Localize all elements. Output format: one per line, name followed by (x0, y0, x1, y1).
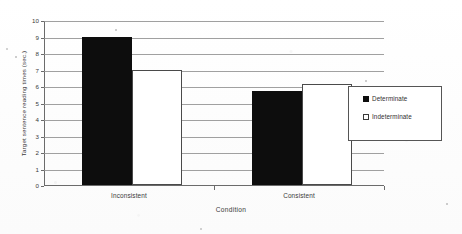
y-axis-tick-label: 3 (35, 133, 39, 139)
legend-label-determinate: Determinate (372, 96, 407, 102)
x-axis-category-label-consistent: Consistent (283, 193, 315, 199)
scan-speck (200, 228, 202, 230)
y-axis-title: Target sentence reading times (sec.) (21, 51, 28, 156)
plot-area: 012345678910InconsistentConsistent (44, 21, 384, 186)
gridline (44, 21, 384, 22)
y-axis-tick-label: 2 (35, 150, 39, 156)
legend-label-indeterminate: Indeterminate (372, 114, 412, 120)
y-axis-tick-label: 5 (35, 100, 39, 106)
y-axis-tick (41, 186, 44, 187)
x-axis-tick (214, 186, 215, 190)
y-axis-tick-label: 6 (35, 84, 39, 90)
bar-consistent-indeterminate (302, 84, 352, 185)
y-axis-tick (41, 54, 44, 55)
bar-inconsistent-determinate (82, 37, 132, 186)
y-axis-tick (41, 104, 44, 105)
x-axis-category-label-inconsistent: Inconsistent (111, 193, 147, 199)
scan-speck (15, 56, 17, 58)
y-axis-tick-label: 1 (35, 166, 39, 172)
y-axis-tick (41, 137, 44, 138)
y-axis-tick-label: 4 (35, 117, 39, 123)
x-axis-tick (384, 186, 385, 190)
x-axis-title: Condition (0, 206, 462, 213)
y-axis-tick (41, 87, 44, 88)
y-axis-tick (41, 153, 44, 154)
y-axis-tick (41, 21, 44, 22)
chart-legend: Determinate Indeterminate (348, 86, 442, 141)
y-axis-title-container: Target sentence reading times (sec.) (18, 21, 30, 186)
y-axis-tick (41, 120, 44, 121)
bar-inconsistent-indeterminate (132, 70, 182, 186)
y-axis-tick-label: 7 (35, 67, 39, 73)
hollow-square-icon (363, 114, 369, 120)
y-axis-tick-label: 0 (35, 183, 39, 189)
y-axis-tick-label: 10 (32, 18, 39, 24)
filled-square-icon (363, 96, 369, 102)
y-axis-tick (41, 38, 44, 39)
y-axis-tick (41, 170, 44, 171)
bar-consistent-determinate (252, 91, 302, 185)
y-axis-tick (41, 71, 44, 72)
bar-chart-figure: Target sentence reading times (sec.) 012… (0, 0, 462, 234)
y-axis-tick-label: 8 (35, 51, 39, 57)
scan-speck (446, 203, 448, 205)
legend-item-determinate: Determinate (363, 96, 441, 102)
scan-speck (6, 48, 8, 50)
legend-item-indeterminate: Indeterminate (363, 114, 441, 120)
y-axis-tick-label: 9 (35, 34, 39, 40)
